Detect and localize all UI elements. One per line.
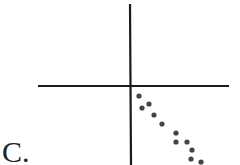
- data-point: [136, 93, 141, 98]
- scatter-plot: [0, 0, 240, 165]
- data-point: [151, 112, 156, 117]
- data-point: [139, 105, 144, 110]
- data-point: [184, 139, 189, 144]
- panel-label: C.: [2, 137, 30, 165]
- data-points: [136, 93, 203, 164]
- data-point: [198, 159, 203, 164]
- data-point: [173, 130, 178, 135]
- data-point: [146, 101, 151, 106]
- data-point: [173, 139, 178, 144]
- data-point: [188, 156, 193, 161]
- y-axis: [130, 4, 131, 165]
- data-point: [189, 147, 194, 152]
- data-point: [159, 121, 164, 126]
